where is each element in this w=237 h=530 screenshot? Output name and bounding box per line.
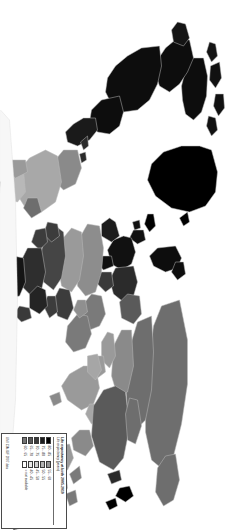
legend-swatch — [40, 437, 45, 444]
legend-item-label: 50 - 55 — [40, 470, 44, 481]
legend-swatch — [28, 437, 33, 444]
legend-title: Life expectancy at birth 2005-2010 — [60, 437, 64, 525]
legend-item-label: 70 - 75 — [34, 446, 38, 457]
legend-subtitle: Life expectancy (years) — [56, 437, 60, 525]
legend-swatch — [34, 437, 39, 444]
legend-item[interactable]: 70 - 75 — [34, 437, 39, 456]
map-page: Life expectancy at birth 2005-2010 Life … — [0, 0, 237, 530]
legend-swatch — [28, 461, 33, 468]
legend-item[interactable]: 55 - 60 — [46, 461, 51, 490]
legend-not-available[interactable]: = not available — [22, 461, 27, 490]
legend-item[interactable]: 45 - 50 — [34, 461, 39, 490]
legend-swatch — [40, 461, 45, 468]
legend-item-label: 65 - 70 — [29, 446, 33, 457]
legend-divider — [53, 437, 54, 525]
legend-column-left: 80 - 85 75 - 80 70 - 75 65 - 70 — [9, 437, 52, 456]
legend-item-label: 40 - 45 — [29, 470, 33, 481]
legend-item[interactable]: 80 - 85 — [46, 437, 51, 456]
legend-swatch — [46, 461, 51, 468]
legend-swatch-na — [22, 461, 27, 468]
legend-item[interactable]: 50 - 55 — [40, 461, 45, 490]
legend-swatch — [34, 461, 39, 468]
legend-swatch — [22, 437, 27, 444]
map-legend[interactable]: Life expectancy at birth 2005-2010 Life … — [1, 433, 67, 529]
legend-item[interactable]: 40 - 45 — [28, 461, 33, 490]
legend-swatch — [46, 437, 51, 444]
legend-item-label: 80 - 85 — [46, 446, 50, 457]
legend-item-label: 75 - 80 — [40, 446, 44, 457]
legend-item-label: 55 - 60 — [46, 470, 50, 481]
legend-item[interactable]: 60 - 65 — [22, 437, 27, 456]
legend-item[interactable]: 65 - 70 — [28, 437, 33, 456]
legend-na-label: = not available — [23, 470, 27, 491]
legend-item-label: 60 - 65 — [23, 446, 27, 457]
legend-column-right: 55 - 60 50 - 55 45 - 50 40 - 45 — [9, 461, 52, 490]
legend-item[interactable]: 75 - 80 — [40, 437, 45, 456]
legend-source: UN / CIA-IGF 2007 data — [4, 437, 8, 525]
legend-item-label: 45 - 50 — [34, 470, 38, 481]
